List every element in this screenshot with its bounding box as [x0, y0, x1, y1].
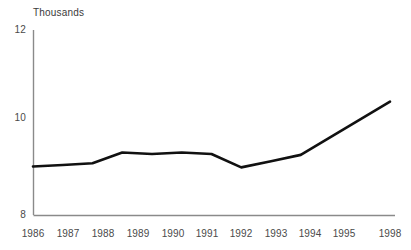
x-axis-tick-label: 1992	[226, 228, 256, 239]
x-axis-tick-label: 1988	[88, 228, 118, 239]
y-axis-tick-label: 12	[4, 24, 26, 35]
x-axis-tick-label: 1993	[261, 228, 291, 239]
x-axis-tick-label: 1989	[123, 228, 153, 239]
x-axis-tick-label: 1986	[18, 228, 48, 239]
x-axis-tick-label: 1991	[192, 228, 222, 239]
x-axis-tick-label: 1998	[375, 228, 405, 239]
x-axis-tick-label: 1987	[53, 228, 83, 239]
y-axis-tick-label: 8	[4, 209, 26, 220]
chart-figure: Thousands 12 10 8 1986 1987 1988 1989 19…	[0, 0, 411, 250]
chart-plot-area	[0, 0, 411, 250]
x-axis-tick-label: 1990	[158, 228, 188, 239]
data-series-line	[33, 102, 390, 168]
x-axis-tick-label: 1994	[295, 228, 325, 239]
x-axis-tick-label: 1995	[329, 228, 359, 239]
y-axis-tick-label: 10	[4, 112, 26, 123]
